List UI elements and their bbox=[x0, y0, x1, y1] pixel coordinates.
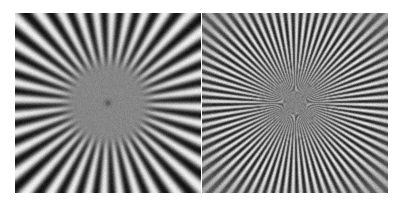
radial-star-panel-right bbox=[202, 13, 388, 193]
radial-star-canvas-left bbox=[15, 13, 201, 193]
radial-star-canvas-right bbox=[202, 13, 388, 193]
figure-root bbox=[0, 0, 401, 205]
radial-star-panel-left bbox=[15, 13, 201, 193]
